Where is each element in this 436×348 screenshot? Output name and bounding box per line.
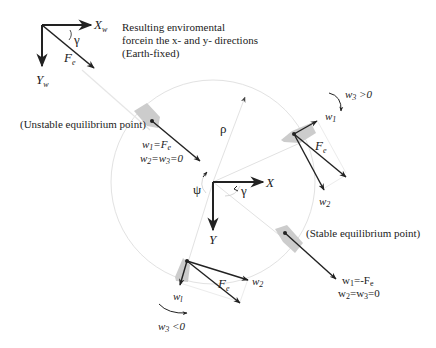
svg-text:wl: wl bbox=[173, 290, 183, 304]
unstable-vessel-group: (Unstable equilibrium point) w1=Fe w2=w3… bbox=[20, 103, 200, 166]
body-y-label: Y bbox=[209, 232, 218, 247]
svg-text:w3 <0: w3 <0 bbox=[158, 320, 186, 334]
small-arrow-mark bbox=[203, 172, 207, 177]
svg-text:w2=w3=0: w2=w3=0 bbox=[140, 152, 184, 166]
stable-force-arrow bbox=[285, 233, 336, 279]
svg-text:w1: w1 bbox=[325, 110, 336, 124]
earth-gamma-label: γ bbox=[73, 32, 80, 47]
body-gamma-label: γ bbox=[240, 183, 247, 198]
svg-text:Yw: Yw bbox=[36, 72, 49, 89]
caption-line-3: (Earth-fixed) bbox=[122, 47, 180, 60]
psi-label: ψ bbox=[193, 182, 201, 197]
rho-radius bbox=[213, 97, 245, 182]
svg-text:Xw: Xw bbox=[93, 17, 108, 34]
svg-text:Fe: Fe bbox=[63, 50, 76, 67]
caption-line-1: Resulting enviromental bbox=[122, 21, 225, 33]
parallelogram-bottom-2 bbox=[240, 279, 248, 302]
gamma-tick bbox=[234, 186, 238, 191]
equilibrium-diagram: Xw Yw γ Fe Resulting enviromental forcei… bbox=[0, 0, 436, 348]
parallelogram-bottom-1 bbox=[180, 283, 240, 302]
right-vessel-group: w3 >0 w1 Fe w2 bbox=[281, 88, 373, 209]
parallelogram-right-2 bbox=[323, 175, 346, 189]
caption-line-2: forcein the x- and y- directions bbox=[122, 34, 258, 46]
stable-vessel bbox=[275, 225, 303, 253]
body-x-label: X bbox=[265, 175, 275, 190]
svg-text:Fe: Fe bbox=[314, 138, 327, 155]
rho-label: ρ bbox=[220, 121, 227, 136]
psi-arc bbox=[202, 174, 206, 193]
stable-vessel-group: (Stable equilibrium point) w1=-Fe w2=w3=… bbox=[275, 225, 421, 301]
svg-text:w2: w2 bbox=[252, 275, 263, 289]
bottom-vessel-group: wl w2 Fe w3 <0 bbox=[158, 258, 263, 334]
svg-text:Fe: Fe bbox=[217, 276, 230, 293]
svg-text:w3 >0: w3 >0 bbox=[345, 88, 373, 102]
svg-text:w1=Fe: w1=Fe bbox=[142, 138, 172, 152]
unstable-label: (Unstable equilibrium point) bbox=[20, 118, 146, 131]
stable-label: (Stable equilibrium point) bbox=[306, 227, 421, 240]
line-to-right-vessel bbox=[213, 143, 300, 182]
right-rotation-arrow bbox=[329, 93, 341, 111]
svg-text:w2=w3=0: w2=w3=0 bbox=[338, 287, 380, 301]
earth-frame: Xw Yw γ Fe Resulting enviromental forcei… bbox=[36, 17, 258, 89]
bottom-rotation-arrow bbox=[159, 304, 187, 313]
body-frame: X Y ψ γ ρ bbox=[193, 121, 275, 247]
earth-gamma-arc bbox=[69, 30, 71, 40]
svg-text:w2: w2 bbox=[319, 195, 330, 209]
svg-text:w1=-Fe: w1=-Fe bbox=[342, 274, 374, 288]
line-to-stable bbox=[213, 182, 283, 238]
